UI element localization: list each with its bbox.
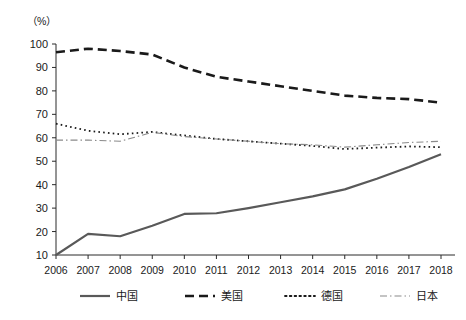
y-axis: 102030405060708090100 bbox=[30, 38, 56, 261]
y-tick-label: 60 bbox=[36, 132, 48, 144]
y-tick-label: 20 bbox=[36, 226, 48, 238]
x-tick-label: 2010 bbox=[173, 264, 197, 276]
series-line-0 bbox=[56, 154, 441, 255]
x-tick-label: 2014 bbox=[301, 264, 325, 276]
data-series-group bbox=[56, 49, 441, 255]
x-tick-label: 2007 bbox=[76, 264, 100, 276]
x-tick-label: 2017 bbox=[397, 264, 421, 276]
line-chart: （%） 102030405060708090100 20062007200820… bbox=[0, 0, 466, 320]
chart-container: （%） 102030405060708090100 20062007200820… bbox=[0, 0, 466, 320]
y-tick-label: 40 bbox=[36, 179, 48, 191]
x-axis: 2006200720082009201020112012201320142015… bbox=[44, 255, 455, 276]
y-tick-label: 100 bbox=[30, 38, 48, 50]
y-tick-label: 10 bbox=[36, 249, 48, 261]
y-tick-label: 90 bbox=[36, 61, 48, 73]
y-axis-unit-label-group: （%） bbox=[27, 15, 56, 27]
y-tick-label: 30 bbox=[36, 202, 48, 214]
chart-legend: 中国美国德国日本 bbox=[80, 289, 438, 303]
x-tick-label: 2013 bbox=[269, 264, 293, 276]
x-tick-label: 2008 bbox=[108, 264, 132, 276]
x-tick-label: 2009 bbox=[141, 264, 165, 276]
x-tick-label: 2016 bbox=[365, 264, 389, 276]
legend-label-1: 美国 bbox=[221, 290, 243, 303]
y-tick-label: 70 bbox=[36, 108, 48, 120]
series-line-3 bbox=[56, 132, 441, 147]
x-tick-label: 2012 bbox=[237, 264, 261, 276]
legend-label-2: 德国 bbox=[321, 289, 343, 303]
legend-label-0: 中国 bbox=[116, 290, 138, 303]
x-tick-label: 2006 bbox=[44, 264, 68, 276]
x-tick-label: 2011 bbox=[205, 264, 228, 276]
x-tick-label: 2018 bbox=[429, 264, 453, 276]
series-line-2 bbox=[56, 124, 441, 149]
x-tick-label: 2015 bbox=[333, 264, 357, 276]
series-line-1 bbox=[56, 49, 441, 103]
y-axis-unit-label: （%） bbox=[27, 15, 56, 27]
legend-label-3: 日本 bbox=[416, 289, 438, 303]
y-tick-label: 80 bbox=[36, 85, 48, 97]
y-tick-label: 50 bbox=[36, 155, 48, 167]
